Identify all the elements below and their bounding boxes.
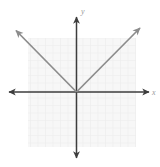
x-axis-label: x [151,88,156,97]
y-axis-label: y [80,7,85,16]
graph-svg: y x [0,0,160,167]
coordinate-plane-figure: y x [0,0,160,167]
